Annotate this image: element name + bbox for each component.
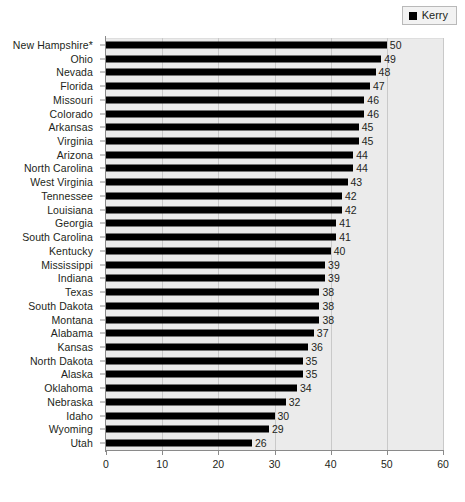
- bar-row: Alabama37: [0, 326, 465, 340]
- x-tick-mark-10: [162, 450, 163, 455]
- bar-value-label: 44: [356, 149, 368, 161]
- bar: [106, 192, 342, 199]
- y-tick-mark: [100, 44, 105, 45]
- bar-value-label: 32: [289, 396, 301, 408]
- bar-row: West Virginia43: [0, 175, 465, 189]
- y-tick-mark: [100, 388, 105, 389]
- category-label: Idaho: [66, 410, 93, 422]
- bar: [106, 275, 325, 282]
- category-label: Nebraska: [47, 396, 93, 408]
- bar-chart: Kerry New Hampshire*50Ohio49Nevada48Flor…: [0, 0, 465, 502]
- x-tick-mark-30: [275, 450, 276, 455]
- bar: [106, 179, 348, 186]
- y-tick-mark: [100, 346, 105, 347]
- bar-row: Oklahoma34: [0, 381, 465, 395]
- bar-value-label: 42: [345, 190, 357, 202]
- y-tick-mark: [100, 223, 105, 224]
- bar-row: Virginia45: [0, 134, 465, 148]
- category-label: West Virginia: [30, 176, 93, 188]
- y-tick-mark: [100, 99, 105, 100]
- y-tick-mark: [100, 168, 105, 169]
- bar-value-label: 47: [373, 80, 385, 92]
- bar: [106, 83, 370, 90]
- bar-row: Mississippi39: [0, 258, 465, 272]
- bar-value-label: 45: [362, 121, 374, 133]
- category-label: South Dakota: [28, 300, 93, 312]
- y-tick-mark: [100, 195, 105, 196]
- bar: [106, 289, 319, 296]
- category-label: Florida: [60, 80, 93, 92]
- bar-value-label: 50: [390, 39, 402, 51]
- bar: [106, 41, 387, 48]
- y-tick-mark: [100, 319, 105, 320]
- bar-value-label: 37: [317, 327, 329, 339]
- y-tick-mark: [100, 333, 105, 334]
- bar: [106, 371, 303, 378]
- bar: [106, 110, 364, 117]
- bar: [106, 316, 319, 323]
- bar-row: South Carolina41: [0, 230, 465, 244]
- bar-row: Ohio49: [0, 52, 465, 66]
- category-label: South Carolina: [22, 231, 93, 243]
- bar: [106, 343, 308, 350]
- bar-row: Indiana39: [0, 271, 465, 285]
- y-tick-mark: [100, 154, 105, 155]
- bar: [106, 398, 286, 405]
- bar: [106, 96, 364, 103]
- y-tick-mark: [100, 113, 105, 114]
- bar: [106, 412, 275, 419]
- y-tick-mark: [100, 209, 105, 210]
- category-label: Oklahoma: [44, 382, 93, 394]
- y-tick-mark: [100, 401, 105, 402]
- bar: [106, 69, 376, 76]
- bar-value-label: 34: [300, 382, 312, 394]
- x-tick-mark-20: [218, 450, 219, 455]
- x-tick-mark-40: [331, 450, 332, 455]
- bar-value-label: 35: [306, 368, 318, 380]
- bar-value-label: 30: [278, 410, 290, 422]
- bar-value-label: 43: [351, 176, 363, 188]
- x-tick-mark-50: [387, 450, 388, 455]
- bar-value-label: 39: [328, 259, 340, 271]
- bar: [106, 385, 297, 392]
- y-tick-mark: [100, 264, 105, 265]
- category-label: Ohio: [70, 53, 93, 65]
- y-tick-mark: [100, 140, 105, 141]
- bar: [106, 426, 269, 433]
- x-tick-mark-0: [106, 450, 107, 455]
- bar-row: Arizona44: [0, 148, 465, 162]
- bar-value-label: 41: [339, 217, 351, 229]
- x-tick-label: 50: [381, 458, 393, 470]
- bar-row: Kentucky40: [0, 244, 465, 258]
- y-tick-mark: [100, 292, 105, 293]
- bar-row: Colorado46: [0, 107, 465, 121]
- category-label: New Hampshire*: [13, 39, 93, 51]
- category-label: Nevada: [56, 66, 93, 78]
- y-tick-mark: [100, 250, 105, 251]
- category-label: Virginia: [57, 135, 93, 147]
- bar: [106, 220, 336, 227]
- bar: [106, 247, 331, 254]
- y-tick-mark: [100, 86, 105, 87]
- bar-row: Nebraska32: [0, 395, 465, 409]
- x-tick-label: 10: [156, 458, 168, 470]
- category-label: Louisiana: [47, 204, 93, 216]
- x-axis-ticks: 0102030405060: [0, 450, 465, 480]
- bar-row: Kansas36: [0, 340, 465, 354]
- bar-row: Montana38: [0, 313, 465, 327]
- category-label: Utah: [70, 437, 93, 449]
- bar: [106, 137, 359, 144]
- y-tick-mark: [100, 429, 105, 430]
- bar-row: Alaska35: [0, 368, 465, 382]
- y-tick-mark: [100, 58, 105, 59]
- bar-value-label: 39: [328, 272, 340, 284]
- bar-value-label: 46: [367, 108, 379, 120]
- bar-row: Tennessee42: [0, 189, 465, 203]
- bar: [106, 124, 359, 131]
- bar-row: North Dakota35: [0, 354, 465, 368]
- bar-row: New Hampshire*50: [0, 38, 465, 52]
- x-tick-label: 30: [269, 458, 281, 470]
- bar: [106, 165, 353, 172]
- bar-value-label: 42: [345, 204, 357, 216]
- y-tick-mark: [100, 305, 105, 306]
